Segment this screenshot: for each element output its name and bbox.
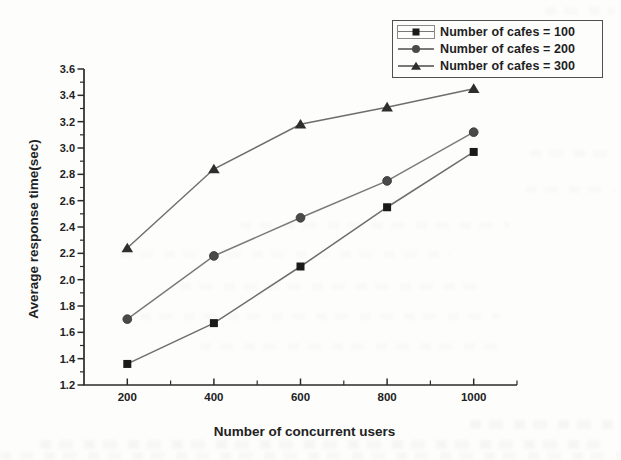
x-tick-label: 200 [118,391,137,403]
chart-legend: Number of cafes = 100 Number of cafes = … [392,20,603,78]
y-tick-label: 2.4 [60,221,76,233]
y-tick-label: 1.2 [60,379,75,391]
y-tick-label: 3.4 [60,89,76,101]
series-line [127,132,473,319]
y-tick-label: 2.6 [60,195,75,207]
x-tick-label: 600 [291,391,310,403]
legend-item-cafes-300: Number of cafes = 300 [397,58,598,75]
y-tick-label: 3.0 [60,142,75,154]
legend-sample [397,25,435,39]
data-point-circle [469,128,478,137]
legend-sample [397,59,435,73]
data-point-circle [383,177,392,186]
data-point-triangle [208,164,220,174]
y-tick-label: 3.6 [60,63,75,75]
y-tick-label: 1.4 [60,353,76,365]
circle-marker-icon [412,45,420,53]
data-point-square [383,203,391,211]
legend-sample [397,42,435,56]
square-marker-icon [413,28,420,35]
x-tick-label: 1000 [461,391,487,403]
data-point-circle [123,315,132,324]
axis-frame [84,69,517,385]
y-tick-label: 3.2 [60,116,75,128]
series-line [127,152,473,364]
x-tick-label: 400 [204,391,223,403]
y-tick-label: 2.8 [60,168,75,180]
legend-label: Number of cafes = 100 [440,25,575,39]
y-tick-label: 1.8 [60,300,75,312]
data-point-circle [296,213,305,222]
data-point-circle [210,252,219,261]
data-point-triangle [468,83,480,93]
triangle-marker-icon [411,62,421,70]
data-point-square [210,319,218,327]
legend-item-cafes-100: Number of cafes = 100 [397,23,598,40]
y-axis-title: Average response time(sec) [26,139,41,319]
series-line [127,89,473,248]
y-tick-label: 2.0 [60,274,75,286]
x-tick-label: 800 [378,391,397,403]
legend-label: Number of cafes = 200 [440,42,575,56]
x-axis-title: Number of concurrent users [214,424,396,439]
data-point-square [470,148,478,156]
data-point-square [297,263,305,271]
y-tick-label: 2.2 [60,247,75,259]
y-tick-label: 1.6 [60,326,75,338]
scanned-figure-page: 1.21.41.61.82.02.22.42.62.83.03.23.43.62… [0,0,621,460]
legend-label: Number of cafes = 300 [440,59,575,73]
data-point-square [123,360,131,368]
legend-item-cafes-200: Number of cafes = 200 [397,40,598,57]
